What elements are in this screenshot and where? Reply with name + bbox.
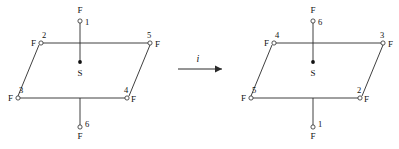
left-eq-vertex-5: [148, 41, 152, 45]
right-eq-vertex-2: [358, 96, 362, 100]
right-eq-vertex-5: [249, 96, 253, 100]
right-axial-bottom-number: 1: [318, 119, 322, 129]
left-eq-vertex-3: [16, 96, 20, 100]
left-eq-number-4: 4: [124, 85, 129, 95]
arrow-head: [215, 66, 222, 73]
right-eq-number-3: 3: [380, 30, 384, 40]
left-eq-element-3: F: [8, 93, 13, 103]
right-axial-top-element: F: [310, 5, 315, 15]
inversion-arrow-group: i: [178, 53, 222, 72]
left-axial-top-vertex: [78, 19, 82, 23]
diagram-svg: S F 1 6 F F 2 5 F F 3 4 F: [0, 0, 399, 149]
left-eq-vertex-2: [39, 41, 43, 45]
left-center-atom-dot: [78, 60, 82, 64]
left-axial-top-number: 1: [85, 17, 89, 27]
right-eq-element-3: F: [388, 39, 393, 49]
left-axial-bottom-vertex: [78, 125, 82, 129]
right-center-atom-dot: [311, 60, 315, 64]
right-eq-number-4: 4: [275, 30, 280, 40]
left-center-atom-label: S: [77, 68, 82, 78]
right-eq-element-4: F: [264, 38, 269, 48]
right-axial-bottom-vertex: [311, 125, 315, 129]
left-eq-element-4: F: [131, 94, 136, 104]
left-eq-number-3: 3: [19, 85, 23, 95]
right-eq-number-2: 2: [357, 85, 361, 95]
right-eq-element-5: F: [241, 93, 246, 103]
right-structure-group: S F 6 1 F F 4 3 F F 5 2 F: [241, 5, 393, 141]
arrow-label-inversion: i: [197, 53, 200, 64]
left-structure-group: S F 1 6 F F 2 5 F F 3 4 F: [8, 5, 160, 141]
right-eq-element-2: F: [364, 94, 369, 104]
right-eq-vertex-3: [381, 41, 385, 45]
right-center-atom-label: S: [310, 68, 315, 78]
left-axial-bottom-number: 6: [85, 119, 89, 129]
left-axial-top-element: F: [77, 5, 82, 15]
left-eq-vertex-4: [125, 96, 129, 100]
left-axial-bottom-element: F: [77, 131, 82, 141]
structure-diagram-canvas: S F 1 6 F F 2 5 F F 3 4 F: [0, 0, 399, 149]
left-eq-number-5: 5: [147, 30, 151, 40]
right-eq-number-5: 5: [252, 85, 256, 95]
right-bond-3-2: [362, 45, 383, 96]
right-axial-top-number: 6: [318, 17, 322, 27]
right-axial-bottom-element: F: [310, 131, 315, 141]
right-eq-vertex-4: [272, 41, 276, 45]
left-eq-number-2: 2: [42, 30, 46, 40]
right-axial-top-vertex: [311, 19, 315, 23]
left-eq-element-2: F: [31, 38, 36, 48]
left-bond-5-4: [129, 45, 150, 96]
left-eq-element-5: F: [155, 39, 160, 49]
